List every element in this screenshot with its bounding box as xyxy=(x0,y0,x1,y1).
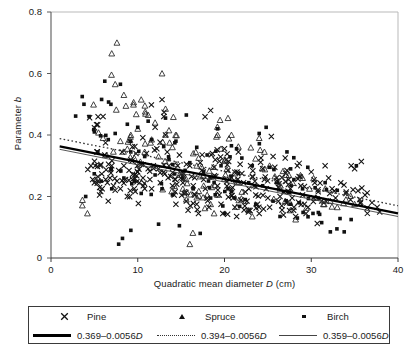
y-axis-title-text: Parameter xyxy=(12,102,23,150)
legend-item-birch-equation[interactable]: 0.359–0.0056D xyxy=(279,330,389,341)
x-axis-title: Quadratic mean diameter D (cm) xyxy=(51,278,398,289)
legend-box: Pine Spruce Birch 0.369–0.0056D xyxy=(28,306,390,344)
thick-solid-line-icon xyxy=(33,334,77,336)
legend-equation-spruce: 0.394–0.0056D xyxy=(201,330,267,341)
legend-marker-row: Pine Spruce Birch xyxy=(29,307,389,326)
legend-equation-pine: 0.369–0.0056D xyxy=(77,330,143,341)
legend-line-row: 0.369–0.0056D 0.394–0.0056D 0.359–0.0056… xyxy=(29,326,389,345)
x-marker-icon xyxy=(41,312,87,321)
legend-equation-birch: 0.359–0.0056D xyxy=(323,330,389,341)
triangle-marker-icon xyxy=(159,314,205,319)
legend-item-pine[interactable]: Pine xyxy=(29,311,157,322)
x-tick-label: 10 xyxy=(123,264,153,275)
legend-item-birch[interactable]: Birch xyxy=(279,311,389,322)
figure-root: Parameter b Quadratic mean diameter D (c… xyxy=(0,0,412,350)
x-tick-label: 40 xyxy=(383,264,412,275)
y-tick-label: 0 xyxy=(12,252,42,263)
x-axis-title-symbol: D xyxy=(266,278,273,289)
y-tick-label: 0.8 xyxy=(12,6,42,17)
y-tick-label: 0.6 xyxy=(12,68,42,79)
x-tick-label: 0 xyxy=(36,264,66,275)
x-tick-label: 20 xyxy=(210,264,240,275)
x-axis-title-post: (cm) xyxy=(273,278,295,289)
legend-item-pine-equation[interactable]: 0.369–0.0056D xyxy=(29,330,157,341)
x-axis-title-pre: Quadratic mean diameter xyxy=(154,278,266,289)
legend-label-spruce: Spruce xyxy=(205,311,235,322)
x-tick-label: 30 xyxy=(296,264,326,275)
legend-item-spruce-equation[interactable]: 0.394–0.0056D xyxy=(157,330,279,341)
square-marker-icon xyxy=(281,315,327,319)
legend-label-birch: Birch xyxy=(327,311,349,322)
scatter-plot-canvas xyxy=(0,0,412,300)
y-tick-label: 0.4 xyxy=(12,129,42,140)
plot-area-wrapper xyxy=(0,0,412,300)
legend-item-spruce[interactable]: Spruce xyxy=(157,311,279,322)
legend-label-pine: Pine xyxy=(87,311,106,322)
y-tick-label: 0.2 xyxy=(12,191,42,202)
y-axis-title-symbol: b xyxy=(12,97,23,102)
y-axis-title: Parameter b xyxy=(12,69,23,179)
thin-solid-line-icon xyxy=(279,335,323,336)
dotted-line-icon xyxy=(157,335,201,336)
